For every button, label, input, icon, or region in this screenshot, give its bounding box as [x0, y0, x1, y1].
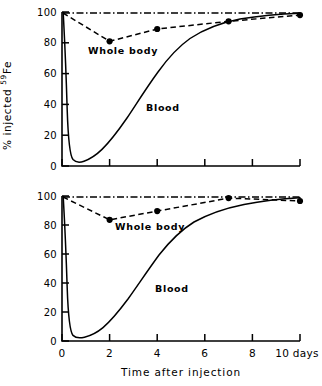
top-y-tick-labels: 0 20 40 60 80 100 [37, 7, 57, 172]
top-whole-body-line [63, 13, 300, 41]
bottom-xtick-6: 6 [201, 347, 208, 359]
bottom-y-ticks [62, 196, 69, 341]
bottom-ytick-20: 20 [44, 307, 57, 318]
top-blood-label: Blood [146, 102, 180, 113]
bottom-x-ticks [62, 334, 300, 341]
top-ytick-40: 40 [44, 99, 57, 110]
bottom-xtick-2: 2 [106, 347, 113, 359]
top-blood-curve [63, 13, 300, 163]
bottom-ytick-0: 0 [50, 336, 57, 347]
bottom-axis-lines [62, 196, 300, 341]
bottom-ytick-100: 100 [37, 191, 57, 202]
bottom-ytick-40: 40 [44, 278, 57, 289]
bottom-whole-body-label: Whole body [115, 221, 185, 232]
bottom-xtick-8: 8 [249, 347, 256, 359]
top-ytick-80: 80 [44, 37, 57, 48]
bottom-ytick-80: 80 [44, 220, 57, 231]
top-axis-lines [62, 12, 300, 166]
bottom-ytick-60: 60 [44, 249, 57, 260]
plot-canvas: 0 20 40 60 80 100 Whole body Blood [0, 0, 322, 386]
bottom-blood-curve [63, 197, 300, 338]
panel-bottom: 0 20 40 60 80 100 0 2 4 6 8 10 days [37, 191, 319, 360]
bottom-xtick-0: 0 [59, 347, 66, 359]
bottom-xtick-4: 4 [154, 347, 161, 359]
top-ytick-0: 0 [50, 161, 57, 172]
top-ytick-60: 60 [44, 68, 57, 79]
bottom-blood-label: Blood [155, 283, 189, 294]
panel-top: 0 20 40 60 80 100 Whole body Blood [37, 7, 303, 172]
top-x-ticks [62, 159, 300, 166]
top-ytick-20: 20 [44, 130, 57, 141]
top-whole-body-label: Whole body [88, 45, 158, 56]
top-ytick-100: 100 [37, 7, 57, 18]
bottom-y-tick-labels: 0 20 40 60 80 100 [37, 191, 57, 347]
top-y-ticks [62, 12, 69, 166]
bottom-x-tick-labels: 0 2 4 6 8 10 days [59, 347, 319, 359]
bottom-xtick-10: 10 days [275, 347, 319, 359]
figure: % injected 59Fe Time after injection [0, 0, 322, 386]
